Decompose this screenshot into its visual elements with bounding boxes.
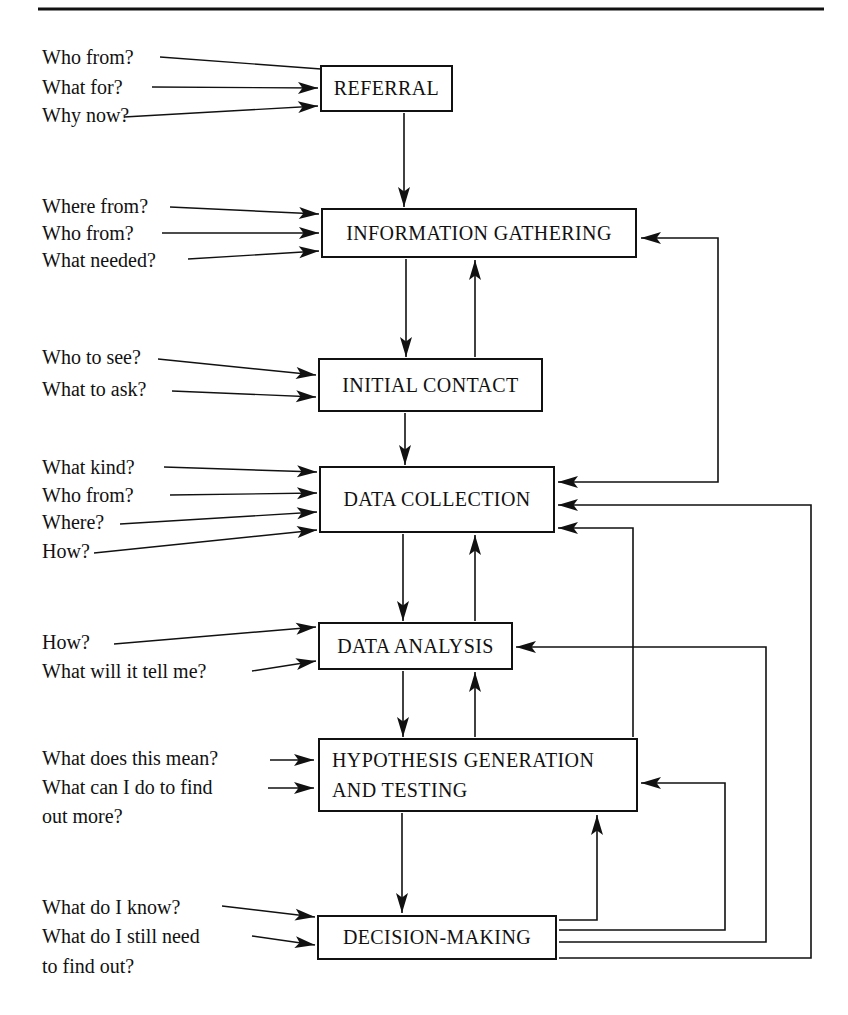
pointer-what-do-i-know — [222, 906, 315, 917]
pointer-what-will-it-tell-me — [252, 661, 316, 671]
node-label: INITIAL CONTACT — [342, 374, 518, 397]
feedback-decision-to-hypothesis-bottom — [559, 815, 597, 920]
feedback-decision-to-data-collection — [558, 505, 811, 958]
node-label: DECISION-MAKING — [343, 926, 531, 949]
node-decision-making: DECISION-MAKING — [317, 915, 557, 960]
node-initial-contact: INITIAL CONTACT — [318, 358, 543, 412]
pointer-what-kind — [164, 467, 317, 472]
question-label: Who from? — [42, 222, 134, 244]
node-information-gathering: INFORMATION GATHERING — [321, 208, 637, 258]
pointer-what-for — [152, 87, 318, 88]
pointer-why-now — [124, 106, 318, 117]
pointer-what-needed — [188, 251, 319, 259]
question-label: What do I still need — [42, 925, 200, 947]
question-label: Why now? — [42, 104, 129, 126]
question-label: Who to see? — [42, 346, 141, 368]
pointer-who-to-see — [158, 359, 316, 375]
node-hypothesis-generation-and-testing: HYPOTHESIS GENERATION AND TESTING — [318, 738, 638, 812]
question-label: to find out? — [42, 955, 134, 977]
pointer-how-data — [94, 530, 317, 553]
feedback-hypothesis-to-data-collection — [558, 528, 633, 737]
node-label-line2: AND TESTING — [332, 775, 468, 805]
pointer-what-do-i-still-need — [252, 936, 315, 945]
question-label: What to ask? — [42, 378, 146, 400]
feedback-loop-to-information-gathering — [641, 238, 718, 360]
question-label: Who from? — [42, 46, 134, 68]
pointer-where-from — [170, 207, 319, 214]
node-data-analysis: DATA ANALYSIS — [318, 622, 513, 670]
question-label: What needed? — [42, 249, 156, 271]
node-label: DATA ANALYSIS — [337, 635, 494, 658]
question-label: What do I know? — [42, 896, 180, 918]
pointer-what-to-ask — [172, 391, 316, 397]
question-label: What kind? — [42, 456, 135, 478]
question-label: Where from? — [42, 195, 148, 217]
question-label: How? — [42, 540, 90, 562]
node-label: INFORMATION GATHERING — [346, 222, 612, 245]
feedback-loop-to-data-collection-upper — [558, 360, 718, 482]
question-label: out more? — [42, 805, 123, 827]
node-label-line1: HYPOTHESIS GENERATION — [332, 745, 594, 775]
question-label: How? — [42, 631, 90, 653]
node-label: DATA COLLECTION — [343, 488, 530, 511]
question-label: Where? — [42, 511, 104, 533]
question-label: Who from? — [42, 484, 134, 506]
question-label: What will it tell me? — [42, 660, 206, 682]
pointer-who-from-data — [170, 493, 317, 495]
node-data-collection: DATA COLLECTION — [319, 466, 555, 533]
book-page-figure: Who from? What for? Why now? Where from?… — [0, 0, 848, 1015]
pointer-who-from-referral — [160, 57, 321, 69]
pointer-how-analysis — [114, 627, 316, 644]
question-label: What for? — [42, 76, 123, 98]
node-referral: REFERRAL — [320, 65, 453, 112]
question-label: What does this mean? — [42, 747, 218, 769]
question-label: What can I do to find — [42, 776, 213, 798]
pointer-where — [120, 512, 317, 524]
node-label: REFERRAL — [334, 77, 439, 100]
